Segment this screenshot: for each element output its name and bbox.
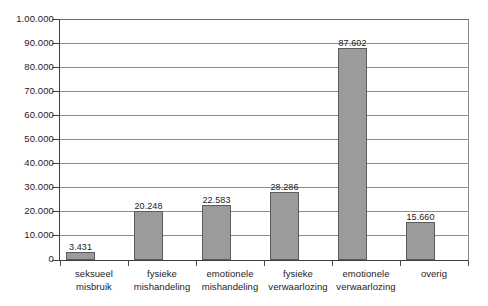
y-tick-mark <box>52 139 59 140</box>
x-label-fysieke-verwaarlozing: fysieke verwaarlozing <box>264 267 332 293</box>
x-label-emotionele-mishandeling: emotionele mishandeling <box>196 267 264 293</box>
bars-layer <box>60 20 468 260</box>
x-tick-mark <box>400 261 401 266</box>
x-axis-category-labels: seksueel misbruik fysieke mishandeling e… <box>0 267 488 306</box>
x-tick-mark <box>128 261 129 266</box>
x-label-line: fysieke <box>264 267 332 280</box>
x-label-line: verwaarlozing <box>264 280 332 293</box>
y-tick-mark <box>52 67 59 68</box>
x-label-line: emotionele <box>332 267 400 280</box>
bar-emotionele-mishandeling <box>202 205 231 260</box>
y-axis-tick-labels: 1.00.000 90.000 80.000 70.000 60.000 50.… <box>0 0 54 306</box>
x-label-line: misbruik <box>60 280 128 293</box>
bar-fysieke-mishandeling <box>134 211 163 260</box>
y-tick-label: 60.000 <box>0 110 54 120</box>
bar-value-label: 87.602 <box>326 38 379 48</box>
bar-fysieke-verwaarlozing <box>270 192 299 260</box>
x-label-line: emotionele <box>196 267 264 280</box>
bar-overig <box>406 222 435 260</box>
x-label-overig: overig <box>400 267 468 280</box>
y-tick-label: 10.000 <box>0 230 54 240</box>
y-tick-label: 70.000 <box>0 86 54 96</box>
x-label-line: verwaarlozing <box>332 280 400 293</box>
x-label-emotionele-verwaarlozing: emotionele verwaarlozing <box>332 267 400 293</box>
y-tick-label: 50.000 <box>0 134 54 144</box>
y-tick-label: 1.00.000 <box>0 14 54 24</box>
bar-value-label: 20.248 <box>122 201 175 211</box>
y-tick-mark <box>52 187 59 188</box>
plot-area: 3.431 20.248 22.583 28.286 87.602 15.660 <box>59 19 469 261</box>
y-tick-mark <box>52 235 59 236</box>
y-tick-mark <box>52 115 59 116</box>
y-tick-mark <box>52 211 59 212</box>
y-tick-label: 20.000 <box>0 206 54 216</box>
bar-value-label: 15.660 <box>394 212 447 222</box>
bar-seksueel-misbruik <box>66 252 95 260</box>
x-label-seksueel-misbruik: seksueel misbruik <box>60 267 128 293</box>
x-label-line: overig <box>400 267 468 280</box>
x-tick-mark <box>264 261 265 266</box>
x-label-fysieke-mishandeling: fysieke mishandeling <box>128 267 196 293</box>
x-label-line: mishandeling <box>128 280 196 293</box>
y-tick-mark <box>52 19 59 20</box>
y-tick-label: 80.000 <box>0 62 54 72</box>
y-tick-mark <box>52 163 59 164</box>
x-tick-mark <box>332 261 333 266</box>
y-tick-label: 90.000 <box>0 38 54 48</box>
y-tick-label: 30.000 <box>0 182 54 192</box>
bar-value-label: 28.286 <box>258 182 311 192</box>
x-tick-mark <box>60 261 61 266</box>
bar-chart: 1.00.000 90.000 80.000 70.000 60.000 50.… <box>0 0 488 306</box>
x-label-line: fysieke <box>128 267 196 280</box>
x-tick-mark <box>196 261 197 266</box>
x-label-line: mishandeling <box>196 280 264 293</box>
x-label-line: seksueel <box>60 267 128 280</box>
y-tick-label: 40.000 <box>0 158 54 168</box>
y-tick-label: 0 <box>0 254 54 264</box>
bar-value-label: 3.431 <box>54 242 107 252</box>
bar-emotionele-verwaarlozing <box>338 48 367 260</box>
y-tick-mark <box>52 91 59 92</box>
bar-value-label: 22.583 <box>190 195 243 205</box>
y-tick-mark <box>52 43 59 44</box>
y-tick-mark <box>52 260 59 261</box>
x-tick-mark <box>468 261 469 266</box>
